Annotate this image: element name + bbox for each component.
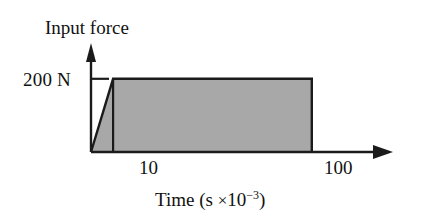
x-axis-arrowhead-icon [373, 145, 393, 159]
x-axis-title-base: 10 [227, 189, 246, 210]
x-axis-title-suffix: ) [259, 189, 265, 210]
shaded-force-region [91, 79, 312, 152]
x-tick-label-100: 100 [324, 158, 353, 177]
y-axis-arrowhead-icon [86, 43, 96, 62]
x-tick-label-10: 10 [139, 158, 158, 177]
y-axis-title: Input force [45, 18, 129, 37]
x-axis-title-prefix: Time (s [155, 189, 218, 210]
multiplication-sign-icon: × [218, 191, 228, 210]
x-axis-title-exponent: −3 [246, 188, 259, 202]
input-force-time-chart: Input force 200 N 10 100 Time (s ×10−3) [0, 0, 421, 223]
y-tick-label-200: 200 N [23, 70, 71, 89]
x-axis-title: Time (s ×10−3) [155, 190, 265, 209]
